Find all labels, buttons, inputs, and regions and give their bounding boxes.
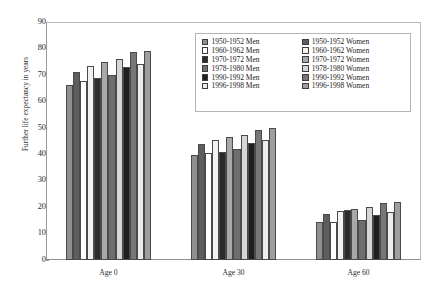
legend-swatch-icon [202, 65, 208, 71]
legend-item[interactable]: 1960-1962 Women [302, 47, 406, 55]
bar [233, 149, 240, 260]
legend-item[interactable]: 1978-1980 Women [302, 65, 406, 73]
bar [198, 144, 205, 260]
legend-item-label: 1978-1980 Women [312, 65, 369, 73]
bar [87, 66, 94, 260]
legend-item[interactable]: 1990-1992 Women [302, 74, 406, 82]
x-axis-label: Age 60 [347, 268, 369, 277]
legend-item[interactable]: 1950-1952 Men [202, 38, 296, 46]
legend-item-label: 1960-1962 Women [312, 47, 369, 55]
bar [137, 64, 144, 260]
legend-item-label: 1990-1992 Men [211, 74, 259, 82]
bar [108, 75, 115, 260]
y-tick-label: 20 [0, 203, 52, 211]
bar [248, 143, 255, 260]
bar [337, 211, 344, 260]
bar [269, 128, 276, 260]
legend-swatch-icon [202, 83, 208, 89]
bar [262, 140, 269, 260]
bar [144, 51, 151, 260]
legend-item-label: 1978-1980 Men [211, 65, 259, 73]
legend-item[interactable]: 1950-1952 Women [302, 38, 406, 46]
legend-swatch-icon [302, 65, 308, 71]
bar [94, 78, 101, 260]
legend-item-label: 1970-1972 Men [211, 56, 259, 64]
y-tick-label: 60 [0, 97, 52, 105]
y-tick-label: 40 [0, 150, 52, 158]
y-tick-label: 80 [0, 44, 52, 52]
bar [191, 155, 198, 261]
bar [373, 215, 380, 260]
y-tick-label: 10 [0, 229, 52, 237]
bar [358, 220, 365, 260]
legend-item[interactable]: 1978-1980 Men [202, 65, 296, 73]
y-tick-label: 90 [0, 18, 52, 26]
bar-chart: Further life expectancy in years 0102030… [0, 0, 443, 292]
bar [255, 130, 262, 260]
legend-swatch-icon [202, 47, 208, 53]
bar [130, 52, 137, 260]
legend-item[interactable]: 1970-1972 Women [302, 56, 406, 64]
legend-item-label: 1950-1952 Men [211, 38, 259, 46]
legend-item[interactable]: 1960-1962 Men [202, 47, 296, 55]
x-axis-label: Age 30 [222, 268, 244, 277]
legend-item-label: 1996-1998 Women [312, 82, 369, 90]
bar [80, 81, 87, 260]
bar [394, 202, 401, 260]
bar [330, 222, 337, 260]
bar [323, 214, 330, 260]
bar [241, 135, 248, 260]
bar [380, 203, 387, 260]
legend-swatch-icon [302, 83, 308, 89]
y-tick-label: 30 [0, 176, 52, 184]
y-tick-mark [46, 260, 49, 261]
legend-swatch-icon [302, 74, 308, 80]
legend-item[interactable]: 1996-1998 Men [202, 82, 296, 90]
x-axis-label: Age 0 [99, 268, 117, 277]
y-tick-label: 0 [0, 256, 52, 264]
bar [123, 67, 130, 260]
bar [344, 210, 351, 260]
legend-swatch-icon [202, 56, 208, 62]
legend-swatch-icon [202, 74, 208, 80]
bar [205, 153, 212, 260]
chart-legend: 1950-1952 Men1960-1962 Men1970-1972 Men1… [195, 33, 411, 112]
bar [66, 85, 73, 260]
legend-swatch-icon [202, 39, 208, 45]
x-axis-labels: Age 0Age 30Age 60 [46, 268, 421, 282]
legend-swatch-icon [302, 47, 308, 53]
legend-column: 1950-1952 Men1960-1962 Men1970-1972 Men1… [202, 38, 296, 108]
bar [387, 212, 394, 260]
bar [366, 207, 373, 260]
bar [351, 209, 358, 260]
legend-column: 1950-1952 Women1960-1962 Women1970-1972 … [302, 38, 406, 108]
legend-item-label: 1950-1952 Women [312, 38, 369, 46]
legend-swatch-icon [302, 56, 308, 62]
y-tick-label: 70 [0, 71, 52, 79]
bar [101, 62, 108, 260]
legend-item-label: 1990-1992 Women [312, 74, 369, 82]
legend-item[interactable]: 1990-1992 Men [202, 74, 296, 82]
y-tick-label: 50 [0, 124, 52, 132]
legend-item[interactable]: 1996-1998 Women [302, 82, 406, 90]
bar-group [66, 22, 151, 260]
bar [73, 72, 80, 260]
legend-item-label: 1970-1972 Women [312, 56, 369, 64]
bar [212, 140, 219, 260]
bar [226, 137, 233, 260]
legend-swatch-icon [302, 39, 308, 45]
bar [316, 222, 323, 260]
bar [116, 59, 123, 260]
legend-item-label: 1960-1962 Men [211, 47, 259, 55]
bar [219, 152, 226, 260]
legend-item[interactable]: 1970-1972 Men [202, 56, 296, 64]
legend-item-label: 1996-1998 Men [211, 82, 259, 90]
